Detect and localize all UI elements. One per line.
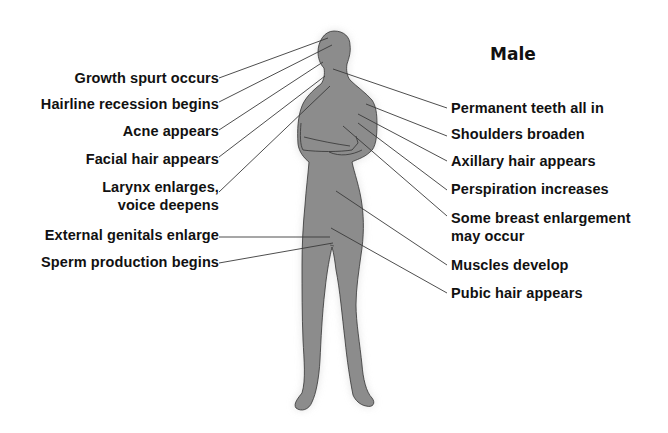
- label-right-3: Perspiration increases: [451, 181, 609, 197]
- label-left-1: Hairline recession begins: [41, 96, 219, 112]
- label-left-3: Facial hair appears: [86, 151, 219, 167]
- label-right-7: Pubic hair appears: [451, 285, 583, 301]
- label-left-2: Acne appears: [123, 123, 219, 139]
- label-left-6: External genitals enlarge: [45, 227, 219, 243]
- label-left-7: Sperm production begins: [41, 254, 219, 270]
- leader-line-shoulders: [366, 104, 447, 136]
- leader-line-perspiration: [358, 123, 447, 190]
- label-right-6: Muscles develop: [451, 257, 569, 273]
- label-left-0: Growth spurt occurs: [75, 70, 220, 86]
- label-left-4: Larynx enlarges,: [102, 179, 219, 195]
- label-right-2: Axillary hair appears: [451, 153, 596, 169]
- label-right-4: Some breast enlargement: [451, 210, 631, 226]
- diagram-title: Male: [490, 44, 536, 64]
- puberty-diagram: Male Growth spurt occursHairline recessi…: [0, 0, 668, 433]
- leader-line-growth-spurt: [219, 38, 328, 78]
- label-left-5: voice deepens: [118, 197, 219, 213]
- label-right-0: Permanent teeth all in: [451, 100, 604, 116]
- label-right-5: may occur: [451, 228, 524, 244]
- male-body-silhouette: [295, 31, 377, 410]
- label-right-1: Shoulders broaden: [451, 126, 585, 142]
